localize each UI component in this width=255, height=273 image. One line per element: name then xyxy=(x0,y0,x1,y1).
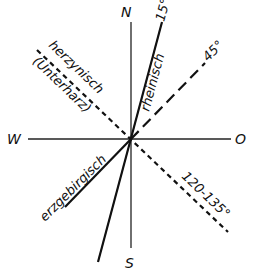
angle-label-120-135: 120-135° xyxy=(179,168,233,221)
strike-direction-diagram: N S W O 15° rheinisch 45° herzynisch (Un… xyxy=(0,0,255,273)
erzgebirgisch-label: erzgebirgisch xyxy=(37,152,110,225)
rheinisch-label: rheinisch xyxy=(137,52,167,113)
angle-label-45: 45° xyxy=(200,37,227,64)
west-label: W xyxy=(7,131,22,147)
east-label: O xyxy=(235,131,246,147)
north-label: N xyxy=(121,4,132,20)
south-label: S xyxy=(125,255,134,271)
angle-label-15: 15° xyxy=(152,0,172,23)
